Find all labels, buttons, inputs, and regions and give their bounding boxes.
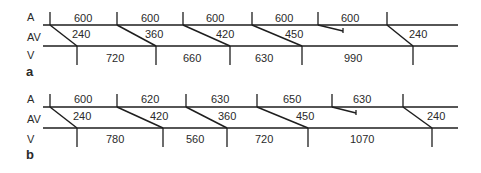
av-interval: 240 (409, 28, 427, 40)
a-interval: 650 (283, 93, 301, 105)
a-interval: 600 (74, 12, 92, 24)
v-interval: 990 (344, 52, 362, 64)
v-interval: 1070 (350, 133, 374, 145)
blocked-conduction (318, 25, 343, 31)
panel-label: a (26, 64, 34, 79)
av-interval: 240 (427, 110, 445, 122)
ladder-diagram: A AV V a 600 600 600 600 600 240 (0, 0, 481, 173)
av-interval: 420 (150, 110, 168, 122)
a-interval: 600 (275, 12, 293, 24)
a-interval: 630 (211, 93, 229, 105)
row-label-a: A (27, 11, 35, 23)
row-label-a: A (27, 93, 35, 105)
v-interval: 780 (106, 133, 124, 145)
row-label-v: V (27, 49, 35, 61)
av-interval: 240 (72, 28, 90, 40)
v-interval: 720 (106, 52, 124, 64)
row-label-v: V (27, 133, 35, 145)
panel-label: b (26, 147, 34, 162)
av-interval: 450 (296, 110, 314, 122)
v-interval: 630 (255, 52, 273, 64)
a-interval: 600 (341, 12, 359, 24)
a-interval: 600 (74, 93, 92, 105)
v-interval: 720 (255, 133, 273, 145)
v-interval: 660 (183, 52, 201, 64)
v-interval: 560 (186, 133, 204, 145)
av-interval: 360 (145, 28, 163, 40)
blocked-conduction (332, 107, 356, 113)
a-interval: 620 (141, 93, 159, 105)
av-interval: 450 (285, 28, 303, 40)
av-interval: 240 (73, 110, 91, 122)
row-label-av: AV (27, 31, 42, 43)
row-label-av: AV (27, 113, 42, 125)
panel-a: A AV V a 600 600 600 600 600 240 (26, 11, 458, 79)
panel-b: A AV V b 600 620 630 650 630 240 (26, 93, 458, 162)
av-interval: 360 (218, 110, 236, 122)
a-interval: 600 (141, 12, 159, 24)
a-interval: 630 (353, 93, 371, 105)
av-interval: 420 (216, 28, 234, 40)
a-interval: 600 (206, 12, 224, 24)
